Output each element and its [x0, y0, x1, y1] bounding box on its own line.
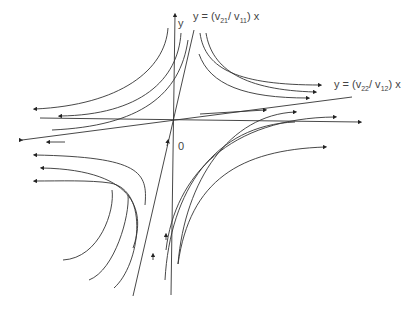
trajectory [42, 168, 138, 248]
trajectory [206, 33, 315, 92]
x-axis [40, 118, 360, 122]
trajectory [178, 147, 325, 264]
trajectory [35, 28, 168, 109]
trajectory [165, 122, 295, 280]
trajectory [52, 40, 188, 130]
trajectory [89, 195, 128, 280]
eigenline-2-label: y = (v22/ v12) x [334, 78, 401, 92]
y-axis-label: y [178, 17, 184, 29]
trajectory [35, 155, 145, 205]
eigenline-1 [133, 30, 194, 296]
y-axis [171, 15, 175, 295]
trajectory [199, 54, 308, 98]
trajectory [63, 190, 112, 260]
trajectory [200, 110, 265, 114]
eigenline-1-label: y = (v21/ v11) x [193, 10, 260, 24]
trajectory [178, 112, 295, 264]
trajectory [200, 33, 320, 85]
origin-label: 0 [178, 140, 184, 152]
phase-portrait: y 0 y = (v21/ v11) x y = (v22/ v12) x [0, 0, 417, 311]
